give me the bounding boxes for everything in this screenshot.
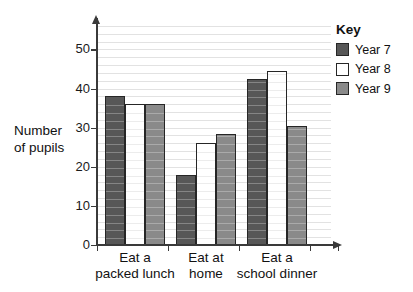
bar-gridline: [248, 121, 266, 122]
bar-gridline: [146, 152, 164, 153]
bar-gridline: [288, 160, 306, 161]
gridline: [97, 42, 331, 43]
bar-gridline: [217, 207, 235, 208]
bar-gridline: [288, 223, 306, 224]
bar: [267, 71, 287, 245]
legend-items: Year 7Year 8Year 9: [336, 41, 410, 97]
bar-gridline: [197, 152, 215, 153]
bar-gridline: [288, 152, 306, 153]
bar-gridline: [268, 136, 286, 137]
bar-gridline: [217, 183, 235, 184]
bar-gridline: [288, 199, 306, 200]
bar-gridline: [268, 168, 286, 169]
bar-gridline: [248, 199, 266, 200]
bar-gridline: [217, 176, 235, 177]
bar-gridline: [248, 176, 266, 177]
bar-gridline: [197, 199, 215, 200]
bar-gridline: [288, 129, 306, 130]
y-tick: [91, 49, 97, 50]
bar-gridline: [126, 207, 144, 208]
bar-gridline: [197, 238, 215, 239]
gridline: [97, 89, 331, 90]
bar-gridline: [268, 191, 286, 192]
bar-gridline: [146, 215, 164, 216]
bar-gridline: [288, 144, 306, 145]
bar-gridline: [248, 207, 266, 208]
bar-gridline: [288, 238, 306, 239]
legend-item: Year 8: [336, 61, 410, 78]
gridline: [97, 26, 331, 27]
y-axis-line: [96, 18, 98, 246]
bar-gridline: [126, 168, 144, 169]
bar-gridline: [126, 176, 144, 177]
x-category-label-line-2: school dinner: [227, 266, 327, 282]
bar: [125, 104, 145, 245]
bar-gridline: [268, 207, 286, 208]
plot-area: [97, 22, 331, 245]
bar-gridline: [248, 144, 266, 145]
bar-gridline: [217, 199, 235, 200]
bar-gridline: [177, 207, 195, 208]
bar-gridline: [268, 238, 286, 239]
x-axis-line: [96, 244, 337, 246]
bar-gridline: [126, 215, 144, 216]
bar-gridline: [177, 223, 195, 224]
bar-gridline: [248, 230, 266, 231]
legend-item: Year 7: [336, 41, 410, 58]
bar-gridline: [146, 207, 164, 208]
bar-gridline: [268, 183, 286, 184]
bar-gridline: [106, 105, 124, 106]
y-tick-label: 50: [64, 42, 90, 55]
y-tick-label: 40: [64, 82, 90, 95]
bar-gridline: [146, 199, 164, 200]
bar-gridline: [146, 160, 164, 161]
bar-gridline: [177, 230, 195, 231]
bar-gridline: [197, 207, 215, 208]
bar-gridline: [248, 136, 266, 137]
y-axis-arrow-icon: [92, 15, 100, 24]
bar-gridline: [146, 136, 164, 137]
bar-gridline: [106, 160, 124, 161]
bar-gridline: [126, 223, 144, 224]
bar-gridline: [146, 144, 164, 145]
bar-gridline: [197, 191, 215, 192]
y-tick: [91, 89, 97, 90]
bar-gridline: [248, 82, 266, 83]
bar-gridline: [217, 168, 235, 169]
bar-gridline: [106, 207, 124, 208]
bar-gridline: [197, 176, 215, 177]
bar: [176, 175, 196, 245]
bar-gridline: [288, 207, 306, 208]
bar-gridline: [146, 223, 164, 224]
gridline: [97, 81, 331, 82]
bar: [216, 134, 236, 246]
bar-gridline: [106, 121, 124, 122]
bar: [287, 126, 307, 245]
bar-gridline: [126, 160, 144, 161]
bar-gridline: [146, 183, 164, 184]
bar-gridline: [268, 97, 286, 98]
bar-gridline: [177, 183, 195, 184]
bar-gridline: [268, 176, 286, 177]
bar-gridline: [268, 160, 286, 161]
gridline: [97, 57, 331, 58]
bar-gridline: [248, 113, 266, 114]
legend-label: Year 7: [355, 43, 391, 57]
bar-gridline: [217, 191, 235, 192]
bar-gridline: [106, 215, 124, 216]
bar-gridline: [177, 191, 195, 192]
legend-swatch: [336, 82, 349, 95]
bar-gridline: [268, 223, 286, 224]
bar-gridline: [146, 191, 164, 192]
bar-gridline: [146, 238, 164, 239]
bar-gridline: [248, 191, 266, 192]
bar-gridline: [288, 168, 306, 169]
bar-gridline: [217, 238, 235, 239]
bar-gridline: [106, 223, 124, 224]
bar-gridline: [288, 230, 306, 231]
bar-gridline: [106, 144, 124, 145]
bar-gridline: [268, 129, 286, 130]
bar-gridline: [268, 90, 286, 91]
bar-gridline: [217, 230, 235, 231]
gridline: [97, 49, 331, 50]
